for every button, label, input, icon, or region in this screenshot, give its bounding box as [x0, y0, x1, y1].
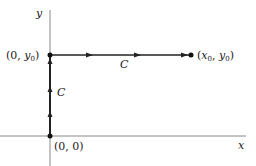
- arrow-right-icon: [181, 53, 188, 58]
- path-label-horizontal: C: [120, 58, 129, 71]
- y-axis-label: y: [35, 7, 43, 20]
- origin-label: (0, 0): [54, 140, 84, 153]
- point-top-left: [48, 53, 53, 58]
- arrow-up-icon: [48, 86, 53, 92]
- point-end: [189, 53, 194, 58]
- arrow-right-icon: [86, 53, 93, 58]
- end-point-label: (x0, y0): [197, 49, 234, 63]
- point-origin: [48, 134, 53, 139]
- path-label-vertical: C: [57, 86, 66, 99]
- arrow-up-icon: [48, 111, 53, 117]
- arrow-right-icon: [134, 53, 141, 58]
- top-left-point-label: (0, y0): [6, 49, 39, 63]
- line-integral-path-diagram: y x (0, 0) (0, y0) (x0, y0) C C: [0, 0, 256, 166]
- arrow-up-icon: [48, 58, 53, 64]
- x-axis-label: x: [238, 139, 245, 152]
